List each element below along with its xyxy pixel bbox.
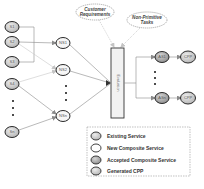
ellipsis-dots-existing — [12, 100, 14, 116]
non-primitive-tasks-ellipse: Non-Primitive Tasks — [127, 12, 167, 28]
legend: Existing Service New Composite Service A… — [87, 127, 190, 176]
customer-requirements-ellipse: Customer Requirements — [76, 4, 114, 20]
node-s1: S1 — [5, 22, 19, 33]
non-primitive-tasks-line2: Tasks — [141, 20, 154, 25]
legend-label-existing-service: Existing Service — [107, 133, 146, 139]
new-composite-nodes: NS1 NS2 NSn — [56, 38, 70, 122]
node-s1-label: S1 — [10, 24, 16, 29]
node-sn-label: Sn — [10, 129, 15, 134]
node-s2: S2 — [5, 37, 19, 48]
legend-label-new-composite-service: New Composite Service — [107, 145, 164, 151]
evaluation-box: Evaluation — [111, 48, 124, 118]
evaluation-output-edges — [124, 57, 181, 98]
node-s4-label: S4 — [10, 81, 16, 86]
node-ns1: NS1 — [56, 38, 70, 49]
generated-cpp-nodes: CPP CPP — [181, 51, 196, 104]
composition-diagram: Customer Requirements Non-Primitive Task… — [0, 0, 204, 189]
node-ns2: NS2 — [56, 65, 70, 76]
node-cppn-label: CPP — [184, 95, 193, 100]
ellipsis-dots-accepted — [154, 71, 156, 85]
node-s3-label: S3 — [10, 59, 16, 64]
node-cppn: CPP — [181, 92, 196, 104]
node-ns2-label: NS2 — [59, 67, 68, 72]
node-cpp1: CPP — [181, 51, 196, 63]
evaluation-label: Evaluation — [116, 75, 120, 92]
node-as1-label: AS1 — [158, 54, 166, 59]
existing-service-nodes: S1 S2 S3 S4 Sn — [5, 22, 19, 138]
node-ns1-label: NS1 — [59, 40, 68, 45]
node-nsn-label: NSn — [59, 113, 67, 118]
node-cpp1-label: CPP — [184, 54, 193, 59]
accepted-composite-nodes: AS1 ASn — [155, 52, 169, 104]
node-as1: AS1 — [155, 52, 169, 63]
node-s4: S4 — [5, 79, 19, 90]
node-asn: ASn — [155, 93, 169, 104]
node-sn: Sn — [5, 127, 19, 138]
legend-label-accepted-composite-service: Accepted Composite Service — [107, 157, 176, 163]
node-nsn: NSn — [56, 111, 70, 122]
customer-requirements-line2: Requirements — [80, 12, 111, 17]
node-s2-label: S2 — [10, 39, 16, 44]
ellipsis-dots-new — [65, 85, 67, 101]
node-asn-label: ASn — [158, 95, 166, 100]
node-s3: S3 — [5, 57, 19, 68]
legend-label-generated-cpp: Generated CPP — [107, 168, 144, 174]
